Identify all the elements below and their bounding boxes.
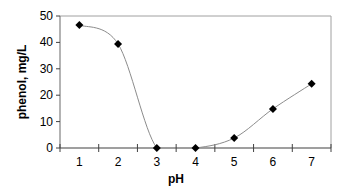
x-tick-label: 4 — [192, 155, 199, 169]
x-axis-title: pH — [168, 172, 184, 186]
x-tick-label: 6 — [270, 155, 277, 169]
y-axis: 01020304050 — [40, 9, 60, 155]
data-point-diamond-icon — [192, 144, 200, 152]
series-line — [79, 25, 311, 156]
y-tick-label: 20 — [40, 88, 54, 102]
data-point-diamond-icon — [230, 134, 238, 142]
data-point-diamond-icon — [114, 40, 122, 48]
x-tick-label: 7 — [308, 155, 315, 169]
y-tick-label: 50 — [40, 9, 54, 23]
x-tick-label: 5 — [231, 155, 238, 169]
data-series — [75, 21, 315, 156]
plot-frame — [60, 16, 331, 148]
x-tick-label: 3 — [153, 155, 160, 169]
data-point-diamond-icon — [153, 144, 161, 152]
y-tick-label: 40 — [40, 35, 54, 49]
y-axis-title: phenol, mg/L — [15, 45, 29, 120]
y-tick-label: 30 — [40, 62, 54, 76]
plot-border — [60, 16, 331, 148]
data-point-diamond-icon — [75, 21, 83, 29]
data-point-diamond-icon — [308, 80, 316, 88]
y-tick-label: 0 — [46, 141, 53, 155]
y-tick-label: 10 — [40, 115, 54, 129]
phenol-vs-ph-chart: 01020304050 1234567 phenol, mg/L pH — [0, 0, 346, 189]
x-tick-label: 1 — [76, 155, 83, 169]
x-tick-label: 2 — [115, 155, 122, 169]
data-point-diamond-icon — [269, 105, 277, 113]
